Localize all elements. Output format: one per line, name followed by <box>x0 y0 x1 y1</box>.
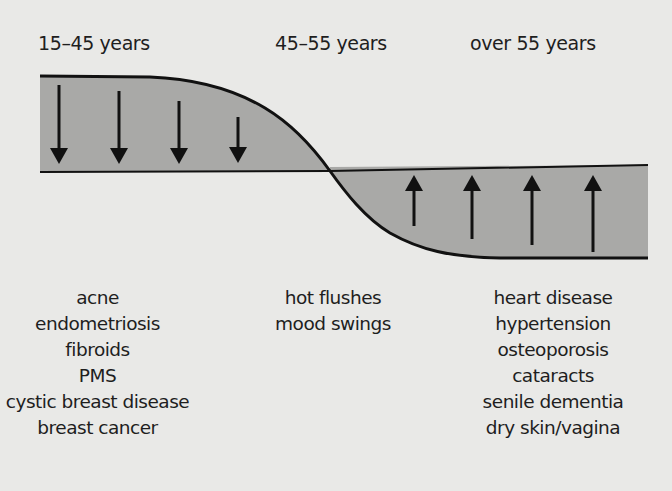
condition-item: hypertension <box>450 311 656 337</box>
condition-item: endometriosis <box>0 311 195 337</box>
condition-item: cataracts <box>450 363 656 389</box>
conditions-15-45: acneendometriosisfibroidsPMScystic breas… <box>0 285 195 441</box>
condition-item: PMS <box>0 363 195 389</box>
condition-item: cystic breast disease <box>0 389 195 415</box>
condition-item: dry skin/vagina <box>450 415 656 441</box>
condition-item: mood swings <box>258 311 408 337</box>
condition-item: heart disease <box>450 285 656 311</box>
condition-item: breast cancer <box>0 415 195 441</box>
condition-item: hot flushes <box>258 285 408 311</box>
lower-shaded-region <box>330 165 648 258</box>
condition-item: acne <box>0 285 195 311</box>
conditions-over-55: heart diseasehypertensionosteoporosiscat… <box>450 285 656 441</box>
condition-item: osteoporosis <box>450 337 656 363</box>
condition-item: fibroids <box>0 337 195 363</box>
conditions-45-55: hot flushesmood swings <box>258 285 408 337</box>
condition-item: senile dementia <box>450 389 656 415</box>
